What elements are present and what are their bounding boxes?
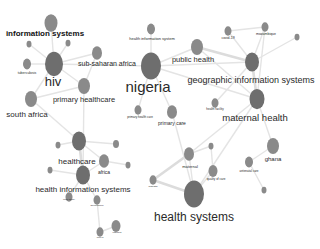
label-africa: africa [98, 169, 110, 175]
node-health-information-system[interactable] [147, 24, 155, 35]
node-quality-of-care[interactable] [209, 165, 218, 177]
label-sub-saharan-africa: sub-saharan africa [78, 60, 136, 67]
node-health-information-systems[interactable] [76, 166, 90, 185]
label-antenatal-care: antenatal care [239, 169, 258, 173]
node-africa[interactable] [99, 154, 109, 168]
label-tuberculosis: tuberculosis [18, 71, 37, 75]
node-nigeria[interactable] [141, 53, 161, 80]
label-south-africa: south africa [6, 110, 48, 119]
node-primary-care[interactable] [167, 105, 177, 119]
edge-covid-19-mozambique [228, 27, 265, 31]
edge-south-africa-healthcare [31, 99, 79, 141]
label-public-health: public health [172, 55, 214, 64]
node-public-health[interactable] [191, 39, 203, 55]
node-tuberculosis[interactable] [23, 59, 31, 70]
node-health-systems[interactable] [184, 181, 204, 208]
label-information-systems: information systems [6, 29, 85, 38]
node-small-1[interactable] [27, 41, 32, 48]
node-mhealth[interactable] [150, 175, 157, 184]
node-antenatal-care[interactable] [245, 157, 253, 168]
node-ghana[interactable] [267, 138, 279, 154]
node-small-5[interactable] [113, 140, 119, 148]
network-diagram: information systemstuberculosishivsub-sa… [0, 0, 320, 249]
edge-small-3-geographic-information-systems [252, 37, 297, 62]
node-small-3[interactable] [295, 34, 300, 41]
node-south-africa[interactable] [25, 91, 37, 107]
node-maternal[interactable] [184, 147, 194, 161]
label-healthcare: healthcare [58, 157, 96, 166]
node-hiv[interactable] [45, 52, 63, 76]
node-small-8[interactable] [209, 143, 214, 150]
label-ethiopia: ethiopia [113, 231, 122, 234]
label-governance: governance [90, 204, 104, 207]
label-health-information-system: health information system [129, 36, 175, 41]
label-hiv: hiv [45, 74, 62, 89]
node-small-7[interactable] [126, 162, 131, 169]
label-kenya: kenya [97, 236, 104, 239]
node-small-4[interactable] [56, 142, 61, 149]
label-nigeria: nigeria [125, 78, 171, 95]
node-primary-healthcare[interactable] [78, 78, 90, 94]
label-geographic-information-systems: geographic information systems [187, 75, 315, 85]
label-maternal-health: maternal health [222, 112, 287, 123]
label-health-systems: health systems [154, 210, 234, 224]
node-mozambique[interactable] [262, 22, 269, 31]
node-maternal-health[interactable] [250, 89, 265, 109]
node-primary-health-care[interactable] [135, 105, 142, 114]
label-mhealth: mhealth [149, 185, 159, 188]
label-covid-19: covid-19 [221, 36, 234, 40]
label-primary-healthcare: primary healthcare [53, 95, 115, 104]
label-quality-of-care: quality of care [207, 177, 226, 181]
node-covid-19[interactable] [225, 26, 232, 35]
label-mozambique: mozambique [256, 32, 276, 36]
label-primary-care: primary care [158, 120, 186, 126]
label-health-information-systems: health information systems [35, 185, 130, 194]
node-healthcare[interactable] [72, 132, 86, 151]
label-health-facility: health facility [206, 107, 224, 111]
label-ghana: ghana [265, 156, 282, 162]
node-small-6[interactable] [48, 167, 53, 174]
node-small-9[interactable] [262, 187, 267, 194]
node-small-2[interactable] [66, 40, 71, 47]
label-primary-health-care: primary health care [127, 115, 153, 119]
label-case-study: case study [63, 198, 76, 201]
node-sub-saharan-africa[interactable] [92, 46, 102, 60]
label-maternal: maternal [182, 164, 198, 169]
node-geographic-information-systems[interactable] [245, 53, 259, 72]
